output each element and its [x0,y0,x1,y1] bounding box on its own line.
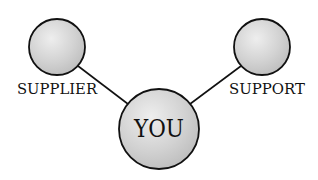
node-support [234,19,290,75]
label-you: YOU [133,115,184,143]
relationship-diagram: SUPPLIER SUPPORT YOU [0,0,318,180]
node-supplier [29,19,85,75]
label-supplier: SUPPLIER [17,80,98,98]
label-support: SUPPORT [229,80,305,98]
